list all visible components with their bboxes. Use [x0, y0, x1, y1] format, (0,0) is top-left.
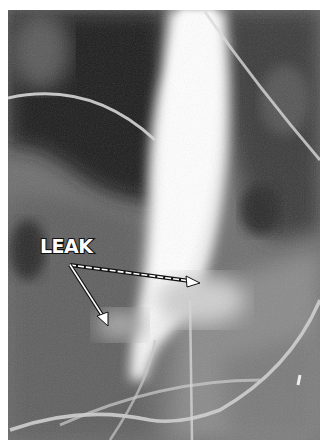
leak-label: LEAK — [40, 235, 94, 257]
xray-image: LEAK — [8, 10, 320, 440]
xray-graphic: LEAK — [8, 10, 320, 440]
